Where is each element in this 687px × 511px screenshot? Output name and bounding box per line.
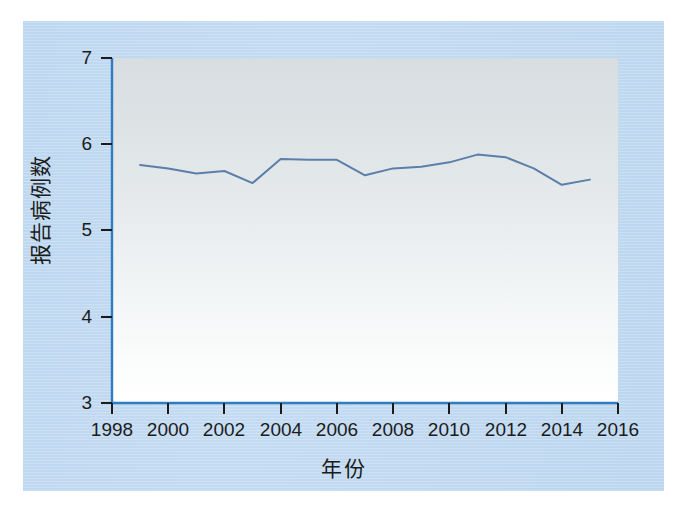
y-axis-ticks <box>101 58 112 403</box>
x-tick-label-2012: 2012 <box>476 420 536 439</box>
data-series-line <box>140 155 590 185</box>
y-tick-label-6: 6 <box>52 134 92 153</box>
y-tick-label-3: 3 <box>52 393 92 412</box>
x-tick-label-1998: 1998 <box>82 420 142 439</box>
y-axis-title: 报告病例数 <box>24 150 54 270</box>
x-tick-label-2000: 2000 <box>138 420 198 439</box>
x-axis-ticks <box>112 403 618 414</box>
x-tick-label-2004: 2004 <box>251 420 311 439</box>
x-axis-title: 年份 <box>0 452 687 482</box>
x-tick-label-2016: 2016 <box>588 420 648 439</box>
x-tick-label-2006: 2006 <box>307 420 367 439</box>
chart-figure: 7 6 5 4 3 1998 2000 2002 2004 2006 2008 … <box>0 0 687 511</box>
x-tick-label-2014: 2014 <box>532 420 592 439</box>
x-tick-label-2010: 2010 <box>419 420 479 439</box>
y-tick-label-4: 4 <box>52 307 92 326</box>
y-tick-label-5: 5 <box>52 220 92 239</box>
x-tick-label-2008: 2008 <box>363 420 423 439</box>
x-tick-label-2002: 2002 <box>194 420 254 439</box>
y-tick-label-7: 7 <box>52 48 92 67</box>
